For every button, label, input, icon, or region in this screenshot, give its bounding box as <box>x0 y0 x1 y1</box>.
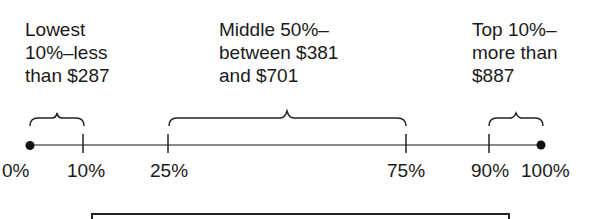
tick-label-25: 25% <box>150 160 188 182</box>
end-marker-icon <box>537 141 546 150</box>
percentile-number-line <box>0 0 604 219</box>
tick-label-0: 0% <box>2 160 29 182</box>
brace-top-icon <box>489 113 543 126</box>
brace-lowest-icon <box>30 113 84 126</box>
start-marker-icon <box>26 141 35 150</box>
tick-label-90: 90% <box>471 160 509 182</box>
tick-label-10: 10% <box>67 160 105 182</box>
legend-box <box>91 213 510 219</box>
tick-label-75: 75% <box>387 160 425 182</box>
brace-middle-icon <box>169 111 406 126</box>
tick-label-100: 100% <box>521 160 570 182</box>
